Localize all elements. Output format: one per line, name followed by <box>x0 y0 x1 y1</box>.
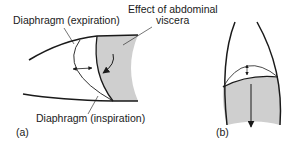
panel-b <box>223 22 281 127</box>
label-effect-line2: viscera <box>156 15 189 26</box>
label-effect-line1: Effect of abdominal <box>128 4 218 15</box>
panel-b-tag: (b) <box>216 127 229 138</box>
label-diaphragm-inspiration: Diaphragm (inspiration) <box>36 113 145 124</box>
panel-a <box>23 27 152 114</box>
label-diaphragm-expiration: Diaphragm (expiration) <box>13 15 120 26</box>
panel-a-tag: (a) <box>16 127 29 138</box>
abdominal-region-shade <box>96 35 138 101</box>
